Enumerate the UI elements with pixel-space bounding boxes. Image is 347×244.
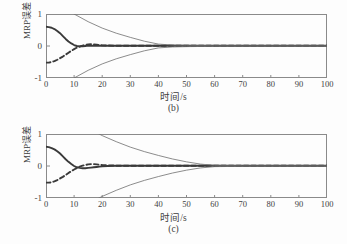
x-tick-label: 20 <box>91 200 113 209</box>
x-tick-label: 100 <box>316 80 338 89</box>
x-tick-label: 100 <box>316 200 338 209</box>
x-tick-label: 90 <box>288 80 310 89</box>
y-tick-label: -1 <box>26 194 42 203</box>
panel-caption-b: (b) <box>0 103 347 113</box>
x-tick-label: 50 <box>176 200 198 209</box>
x-axis-label-c: 时间/s <box>0 210 347 224</box>
x-tick-label: 70 <box>232 80 254 89</box>
y-tick-label: 0 <box>26 42 42 51</box>
series-solid-thin <box>46 134 327 166</box>
x-tick-label: 80 <box>260 200 282 209</box>
series-solid <box>46 27 327 47</box>
plot-area-c <box>46 134 327 198</box>
x-tick-label: 10 <box>63 200 85 209</box>
series-dashed <box>46 164 327 183</box>
chart-panel-c: MRP误差 时间/s (c) 0102030405060708090100-10… <box>0 120 347 244</box>
x-tick-label: 30 <box>119 80 141 89</box>
x-tick-label: 60 <box>204 80 226 89</box>
figure-mrp-error: MRP误差 时间/s (b) 0102030405060708090100-10… <box>0 0 347 244</box>
y-tick-label: 1 <box>26 130 42 139</box>
plot-svg-b <box>46 14 327 78</box>
series-solid-thin <box>46 14 327 46</box>
y-tick-label: 0 <box>26 162 42 171</box>
x-tick-label: 80 <box>260 80 282 89</box>
y-tick-label: -1 <box>26 74 42 83</box>
x-tick-label: 10 <box>63 80 85 89</box>
series-solid-thin <box>46 166 327 198</box>
x-tick-label: 40 <box>147 200 169 209</box>
x-tick-label: 20 <box>91 80 113 89</box>
y-tick-label: 1 <box>26 10 42 19</box>
plot-area-b <box>46 14 327 78</box>
x-axis-label-b: 时间/s <box>0 89 347 103</box>
x-tick-label: 90 <box>288 200 310 209</box>
plot-svg-c <box>46 134 327 198</box>
chart-panel-b: MRP误差 时间/s (b) 0102030405060708090100-10… <box>0 0 347 122</box>
x-tick-label: 60 <box>204 200 226 209</box>
x-tick-label: 30 <box>119 200 141 209</box>
x-tick-label: 50 <box>176 80 198 89</box>
x-tick-label: 70 <box>232 200 254 209</box>
panel-caption-c: (c) <box>0 224 347 234</box>
x-tick-label: 40 <box>147 80 169 89</box>
series-solid-thin <box>46 46 327 78</box>
